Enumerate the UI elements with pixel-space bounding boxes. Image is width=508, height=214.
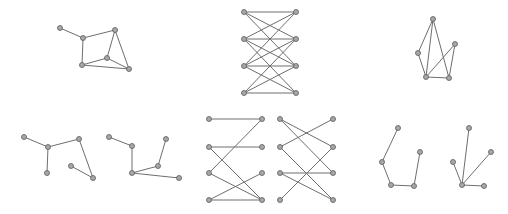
graph-node — [294, 37, 299, 42]
graph-node — [113, 28, 118, 33]
graph-node — [69, 164, 74, 169]
graph-node — [412, 184, 417, 189]
graph-node — [260, 198, 265, 203]
graph-node — [130, 144, 135, 149]
graph-edge — [24, 137, 48, 147]
graph-edge — [426, 44, 455, 77]
graph-edge — [82, 58, 107, 65]
graph-node — [207, 198, 212, 203]
graph-edge — [433, 19, 449, 78]
graph-node — [331, 117, 336, 122]
graph-edge — [382, 128, 398, 162]
graph-edge — [280, 119, 333, 173]
graph-edge — [209, 147, 262, 200]
graph-edge — [414, 152, 420, 186]
graph-edge — [79, 139, 93, 178]
graph-node — [260, 145, 265, 150]
graph-node — [389, 183, 394, 188]
graph-node — [278, 145, 283, 150]
graph-node — [331, 171, 336, 176]
graph-node — [207, 117, 212, 122]
graph-edge — [47, 147, 48, 173]
graph-node — [80, 63, 85, 68]
graph-edge — [48, 139, 79, 147]
graph-edge — [382, 162, 391, 185]
graph-node — [451, 160, 456, 165]
graph-edge — [280, 173, 333, 200]
graph-node — [294, 10, 299, 15]
graph-node — [294, 64, 299, 69]
graph-node — [447, 76, 452, 81]
graph-node — [156, 164, 161, 169]
graph-edge — [391, 185, 414, 186]
graph-top-left — [58, 26, 132, 72]
graph-edge — [462, 152, 491, 185]
graph-node — [46, 145, 51, 150]
graph-edge — [109, 137, 132, 146]
graph-diagram-canvas — [0, 0, 508, 214]
graph-bottom-right-b — [451, 126, 494, 189]
graph-node — [105, 56, 110, 61]
graph-top-middle-bipartite — [242, 10, 299, 96]
graph-bottom-middle-a — [207, 117, 265, 203]
graph-node — [380, 160, 385, 165]
graph-node — [164, 137, 169, 142]
graph-node — [91, 176, 96, 181]
graph-node — [331, 198, 336, 203]
graph-edge — [82, 38, 83, 65]
graph-node — [177, 176, 182, 181]
graph-node — [242, 37, 247, 42]
graph-bottom-left-a — [22, 135, 96, 181]
graph-node — [489, 150, 494, 155]
graph-edge — [426, 77, 449, 78]
graph-bottom-middle-b — [278, 117, 336, 203]
graph-node — [242, 10, 247, 15]
graph-edge — [83, 30, 115, 38]
graph-node — [260, 171, 265, 176]
graph-node — [127, 67, 132, 72]
graph-edge — [132, 173, 179, 178]
graph-node — [242, 91, 247, 96]
graph-top-right — [416, 17, 458, 81]
graph-node — [77, 137, 82, 142]
graph-edge — [158, 139, 166, 166]
graph-node — [260, 117, 265, 122]
graph-node — [278, 198, 283, 203]
graph-node — [81, 36, 86, 41]
graph-node — [467, 126, 472, 131]
graph-node — [45, 171, 50, 176]
graph-bottom-left-b — [107, 135, 182, 181]
graph-node — [331, 145, 336, 150]
graph-edge — [132, 166, 158, 173]
graph-node — [418, 150, 423, 155]
graph-edge — [462, 128, 469, 185]
graph-node — [294, 91, 299, 96]
graph-node — [207, 145, 212, 150]
graph-edge — [107, 30, 115, 58]
graph-node — [416, 51, 421, 56]
graph-node — [207, 171, 212, 176]
graph-edge — [418, 53, 426, 77]
graph-node — [453, 42, 458, 47]
graph-bottom-right-a — [380, 126, 423, 189]
graph-node — [242, 64, 247, 69]
graph-edge — [209, 119, 262, 173]
graph-node — [424, 75, 429, 80]
graph-edge — [453, 162, 462, 185]
graph-node — [396, 126, 401, 131]
graph-node — [278, 117, 283, 122]
graph-edge — [462, 185, 484, 186]
graph-edge — [60, 28, 83, 38]
graph-node — [107, 135, 112, 140]
graph-node — [482, 184, 487, 189]
graph-node — [58, 26, 63, 31]
graph-node — [460, 183, 465, 188]
graph-node — [431, 17, 436, 22]
graph-node — [278, 171, 283, 176]
graph-node — [22, 135, 27, 140]
graph-node — [130, 171, 135, 176]
